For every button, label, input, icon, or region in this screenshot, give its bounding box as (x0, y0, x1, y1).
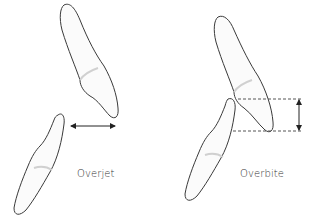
lower-incisor-right (185, 99, 235, 201)
dental-diagram (0, 0, 311, 222)
upper-incisor-left (60, 4, 118, 118)
overjet-label: Overjet (77, 168, 115, 179)
overjet-panel (14, 4, 118, 214)
overbite-label: Overbite (240, 168, 284, 179)
lower-incisor-left (14, 114, 64, 214)
